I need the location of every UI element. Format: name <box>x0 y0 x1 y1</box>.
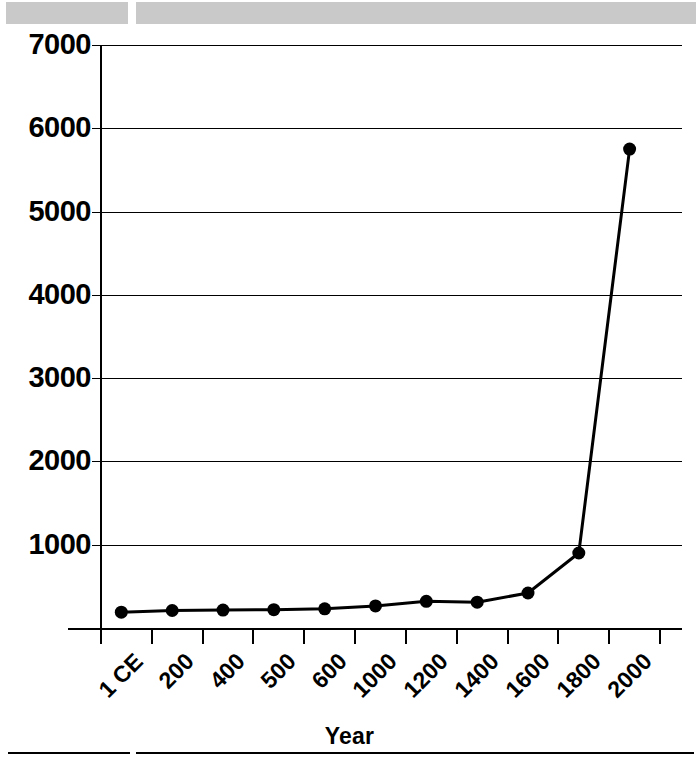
bottom-rule-right-segment <box>136 752 694 754</box>
x-axis-title: Year <box>0 723 699 750</box>
bottom-rule-left-segment <box>8 752 130 754</box>
scan-band-right-segment <box>136 2 696 24</box>
scan-band <box>0 0 699 26</box>
data-point-marker <box>369 599 382 612</box>
data-point-marker <box>166 604 179 617</box>
chart-figure: 1000200030004000500060007000 1 CE2004005… <box>0 26 699 766</box>
scan-band-left-segment <box>6 2 128 24</box>
bottom-rule <box>0 752 699 756</box>
data-point-marker <box>267 603 280 616</box>
data-point-marker <box>522 587 535 600</box>
x-axis-line <box>68 628 682 630</box>
data-point-marker <box>318 602 331 615</box>
data-point-marker <box>623 143 636 156</box>
series-markers <box>115 143 636 619</box>
data-point-marker <box>420 595 433 608</box>
data-point-marker <box>115 606 128 619</box>
data-series <box>0 26 699 636</box>
plot-area: 1000200030004000500060007000 <box>0 26 699 636</box>
data-point-marker <box>572 547 585 560</box>
data-point-marker <box>471 596 484 609</box>
series-line <box>121 149 629 612</box>
data-point-marker <box>217 604 230 617</box>
